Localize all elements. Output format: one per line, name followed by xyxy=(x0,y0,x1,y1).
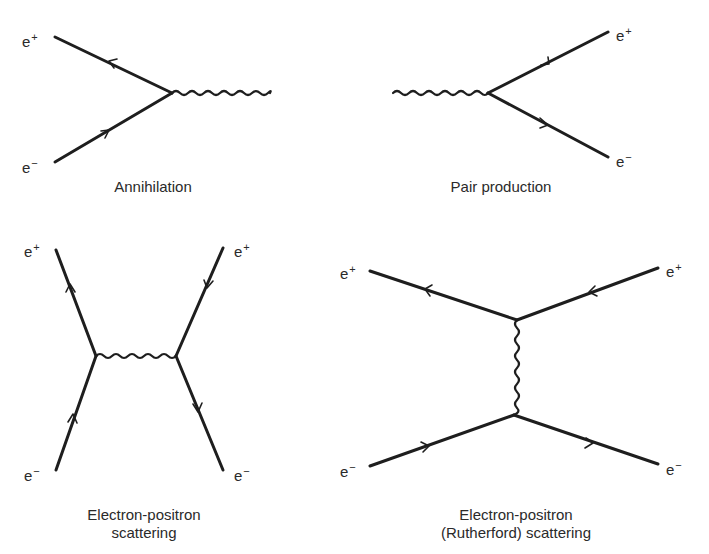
particle-symbol: e xyxy=(22,159,30,176)
positron-label: e+ xyxy=(24,240,40,259)
photon-line xyxy=(514,320,519,415)
caption-ee-scattering: Electron-positronscattering xyxy=(87,506,200,542)
particle-symbol: e xyxy=(340,463,348,480)
charge-sign: + xyxy=(31,31,37,43)
caption-line: (Rutherford) scattering xyxy=(441,524,591,542)
particle-symbol: e xyxy=(234,243,242,260)
rutherford-scattering-diagram xyxy=(370,268,658,466)
particle-symbol: e xyxy=(666,461,674,478)
particle-symbol: e xyxy=(340,265,348,282)
pair-production-diagram xyxy=(393,32,608,157)
charge-sign: + xyxy=(625,25,631,37)
positron-line-left xyxy=(56,250,96,356)
positron-line xyxy=(55,37,172,93)
electron-line-left xyxy=(56,356,96,470)
charge-sign: + xyxy=(33,241,39,253)
annihilation-diagram xyxy=(55,37,271,162)
charge-sign: − xyxy=(625,151,631,163)
positron-line-left xyxy=(370,271,517,320)
electron-line-left xyxy=(370,415,514,466)
charge-sign: − xyxy=(33,465,39,477)
particle-symbol: e xyxy=(616,153,624,170)
ee-scattering-diagram xyxy=(56,248,223,470)
particle-symbol: e xyxy=(22,33,30,50)
electron-label: e− xyxy=(234,464,250,483)
caption-line: Electron-positron xyxy=(441,506,591,524)
charge-sign: − xyxy=(349,461,355,473)
electron-label: e− xyxy=(24,464,40,483)
charge-sign: + xyxy=(675,261,681,273)
particle-symbol: e xyxy=(666,263,674,280)
electron-label: e− xyxy=(340,460,356,479)
charge-sign: + xyxy=(243,241,249,253)
caption-rutherford-scattering: Electron-positron(Rutherford) scattering xyxy=(441,506,591,542)
positron-label: e+ xyxy=(22,30,38,49)
charge-sign: − xyxy=(243,465,249,477)
electron-line-right xyxy=(176,356,223,470)
electron-line xyxy=(55,93,172,162)
electron-line-right xyxy=(514,415,658,464)
particle-symbol: e xyxy=(234,467,242,484)
electron-label: e− xyxy=(22,156,38,175)
photon-line xyxy=(96,354,176,358)
positron-label: e+ xyxy=(616,24,632,43)
positron-line-right xyxy=(517,268,658,320)
positron-label: e+ xyxy=(666,260,682,279)
positron-line-right xyxy=(176,248,223,356)
caption-line: Electron-positron xyxy=(87,506,200,524)
photon-line xyxy=(393,91,488,95)
photon-line xyxy=(172,91,271,95)
caption-line: scattering xyxy=(87,524,200,542)
charge-sign: − xyxy=(31,157,37,169)
electron-label: e− xyxy=(616,150,632,169)
caption-pair-production: Pair production xyxy=(451,178,552,196)
positron-label: e+ xyxy=(234,240,250,259)
particle-symbol: e xyxy=(24,243,32,260)
electron-label: e− xyxy=(666,458,682,477)
caption-annihilation: Annihilation xyxy=(114,178,192,196)
charge-sign: + xyxy=(349,263,355,275)
positron-label: e+ xyxy=(340,262,356,281)
charge-sign: − xyxy=(675,459,681,471)
particle-symbol: e xyxy=(616,27,624,44)
particle-symbol: e xyxy=(24,467,32,484)
